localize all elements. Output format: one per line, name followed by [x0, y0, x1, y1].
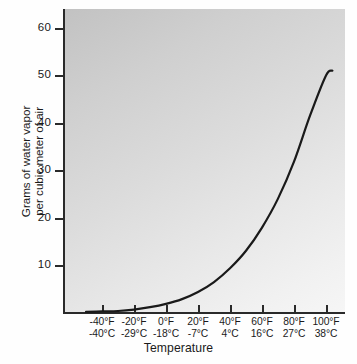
y-axis-tick [55, 218, 64, 220]
x-axis-tick [102, 305, 104, 313]
y-axis-title-line2: per cubic meter of air [32, 61, 45, 261]
chart-figure: 60 50 40 30 20 10 -40°F -40°C -20°F -29°… [0, 0, 357, 364]
x-axis-tick [230, 305, 232, 313]
x-axis-tick [134, 305, 136, 313]
y-axis-title-line1: Grams of water vapor [19, 61, 32, 261]
y-axis-tick [55, 170, 64, 172]
y-axis-tick-label: 60 [21, 22, 51, 33]
x-axis-tick [166, 305, 168, 313]
x-axis-tick [262, 305, 264, 313]
y-axis-tick [55, 123, 64, 125]
x-tick-celsius: 38°C [300, 328, 352, 340]
y-axis-line [63, 9, 65, 313]
x-axis-tick [326, 305, 328, 313]
y-axis-tick [55, 28, 64, 30]
x-axis-line [63, 312, 345, 314]
x-tick-fahrenheit: 100°F [300, 316, 352, 328]
x-axis-title: Temperature [0, 341, 357, 355]
x-axis-tick-label: 100°F 38°C [300, 316, 352, 340]
plot-area [64, 9, 345, 313]
y-axis-tick [55, 75, 64, 77]
x-axis-tick [294, 305, 296, 313]
y-axis-tick [55, 265, 64, 267]
y-axis-title: Grams of water vapor per cubic meter of … [19, 61, 46, 261]
x-axis-tick [198, 305, 200, 313]
